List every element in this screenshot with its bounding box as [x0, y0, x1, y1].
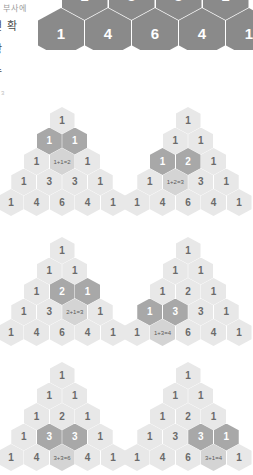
pascal-panel-4: 111121133111+3=4641 — [124, 233, 250, 363]
pascal-panel-6: 11112113311463+1=41 — [124, 358, 250, 475]
corner-mark: 3 — [1, 90, 6, 96]
pascal-panel-3: 111121132+1=3114641 — [0, 233, 124, 363]
pascal-panel-2: 11112111+2=33114641 — [124, 103, 250, 233]
pascal-panel-1: 11111+1=21133114641 — [0, 103, 124, 233]
top-pascal-triangle: 133114641 — [0, 0, 253, 50]
side-text-line-3: 수 — [0, 62, 3, 78]
pascal-panel-5: 1111211331143+3=641 — [0, 358, 124, 475]
